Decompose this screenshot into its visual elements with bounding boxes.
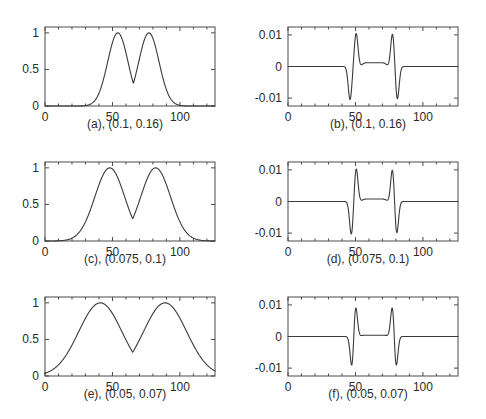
subplot-caption-c: (c), (0.075, 0.1) bbox=[35, 252, 215, 266]
curve-a bbox=[45, 33, 215, 106]
y-tick-label: 0 bbox=[32, 369, 39, 383]
plot-frame-d bbox=[288, 162, 458, 241]
y-tick-label: 1 bbox=[32, 296, 39, 310]
y-tick-label: 0.01 bbox=[259, 298, 283, 312]
y-tick-label: 1 bbox=[32, 161, 39, 175]
curve-c bbox=[45, 168, 215, 241]
y-tick-label: 0 bbox=[275, 60, 282, 74]
y-tick-label: 0 bbox=[275, 195, 282, 209]
y-tick-label: 0.01 bbox=[259, 163, 283, 177]
curve-d bbox=[288, 169, 458, 234]
y-tick-label: 0.01 bbox=[259, 28, 283, 42]
y-tick-label: 0 bbox=[275, 330, 282, 344]
subplot-caption-e: (e), (0.05, 0.07) bbox=[35, 387, 215, 401]
subplot-caption-f: (f), (0.05, 0.07) bbox=[278, 387, 458, 401]
y-tick-label: 0 bbox=[32, 234, 39, 248]
plot-frame-b bbox=[288, 27, 458, 106]
plot-frame-e bbox=[45, 297, 215, 376]
plot-frame-a bbox=[45, 27, 215, 106]
y-tick-label: 0.5 bbox=[22, 197, 39, 211]
y-tick-label: -0.01 bbox=[255, 91, 283, 105]
y-tick-label: -0.01 bbox=[255, 361, 283, 375]
curve-f bbox=[288, 308, 458, 365]
figure-panel-grid: 05010000.51(a), (0.1, 0.16)050100-0.0100… bbox=[0, 0, 486, 419]
subplot-caption-d: (d), (0.075, 0.1) bbox=[278, 252, 458, 266]
subplot-caption-b: (b), (0.1, 0.16) bbox=[278, 117, 458, 131]
plot-frame-f bbox=[288, 297, 458, 376]
y-tick-label: 0.5 bbox=[22, 332, 39, 346]
y-tick-label: -0.01 bbox=[255, 226, 283, 240]
y-tick-label: 0.5 bbox=[22, 62, 39, 76]
curve-e bbox=[45, 303, 215, 373]
y-tick-label: 1 bbox=[32, 26, 39, 40]
y-tick-label: 0 bbox=[32, 99, 39, 113]
curve-b bbox=[288, 33, 458, 99]
plot-frame-c bbox=[45, 162, 215, 241]
subplot-caption-a: (a), (0.1, 0.16) bbox=[35, 117, 215, 131]
